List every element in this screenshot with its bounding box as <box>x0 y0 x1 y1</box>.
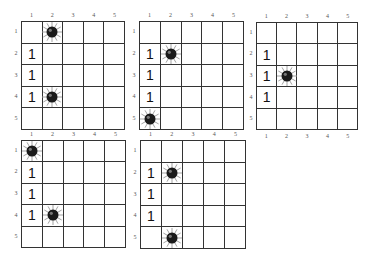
cell-r4-c3[interactable] <box>64 205 85 226</box>
cell-r2-c2[interactable] <box>162 163 183 185</box>
cell-r3-c3[interactable] <box>64 184 85 205</box>
cell-r5-c5[interactable] <box>104 108 125 130</box>
cell-r1-c3[interactable] <box>64 141 85 162</box>
cell-r2-c2[interactable] <box>277 44 297 65</box>
cell-r1-c1[interactable] <box>140 22 161 44</box>
cell-r2-c3[interactable] <box>182 44 203 66</box>
cell-r3-c3[interactable] <box>63 65 84 87</box>
cell-r1-c3[interactable] <box>63 22 84 44</box>
cell-r4-c4[interactable] <box>318 87 338 108</box>
cell-r3-c3[interactable] <box>183 184 204 206</box>
cell-r3-c4[interactable] <box>84 65 105 87</box>
cell-r1-c1[interactable] <box>257 23 277 44</box>
cell-r5-c3[interactable] <box>63 108 84 130</box>
cell-r5-c1[interactable] <box>22 227 43 248</box>
cell-r3-c2[interactable] <box>162 184 183 206</box>
cell-r4-c3[interactable] <box>297 87 317 108</box>
cell-r4-c1[interactable]: 1 <box>140 87 161 109</box>
cell-r2-c5[interactable] <box>223 44 244 66</box>
cell-r2-c4[interactable] <box>84 44 105 66</box>
cell-r2-c1[interactable]: 1 <box>22 44 43 66</box>
cell-r1-c5[interactable] <box>104 22 125 44</box>
cell-r4-c2[interactable] <box>43 87 64 109</box>
cell-r3-c5[interactable] <box>225 184 246 206</box>
cell-r4-c1[interactable]: 1 <box>141 206 162 228</box>
cell-r5-c2[interactable] <box>162 227 183 249</box>
cell-r1-c3[interactable] <box>297 23 317 44</box>
cell-r5-c3[interactable] <box>64 227 85 248</box>
cell-r1-c2[interactable] <box>277 23 297 44</box>
cell-r1-c5[interactable] <box>105 141 126 162</box>
cell-r1-c5[interactable] <box>338 23 358 44</box>
cell-r4-c3[interactable] <box>183 206 204 228</box>
cell-r5-c1[interactable] <box>140 108 161 130</box>
cell-r3-c5[interactable] <box>105 184 126 205</box>
cell-r3-c2[interactable] <box>277 66 297 87</box>
cell-r1-c2[interactable] <box>43 22 64 44</box>
cell-r5-c4[interactable] <box>84 227 105 248</box>
cell-r1-c4[interactable] <box>84 22 105 44</box>
cell-r5-c5[interactable] <box>338 109 358 130</box>
cell-r2-c1[interactable]: 1 <box>140 44 161 66</box>
cell-r1-c3[interactable] <box>182 22 203 44</box>
cell-r4-c1[interactable]: 1 <box>22 205 43 226</box>
cell-r2-c5[interactable] <box>225 163 246 185</box>
cell-r3-c1[interactable]: 1 <box>22 65 43 87</box>
cell-r3-c4[interactable] <box>204 184 225 206</box>
cell-r1-c4[interactable] <box>202 22 223 44</box>
cell-r1-c2[interactable] <box>161 22 182 44</box>
cell-r1-c1[interactable] <box>22 22 43 44</box>
cell-r4-c3[interactable] <box>63 87 84 109</box>
cell-r3-c1[interactable]: 1 <box>257 66 277 87</box>
cell-r5-c4[interactable] <box>84 108 105 130</box>
cell-r2-c3[interactable] <box>183 163 204 185</box>
cell-r3-c1[interactable]: 1 <box>140 65 161 87</box>
cell-r2-c5[interactable] <box>104 44 125 66</box>
cell-r3-c1[interactable]: 1 <box>22 184 43 205</box>
cell-r5-c4[interactable] <box>202 108 223 130</box>
cell-r5-c1[interactable] <box>257 109 277 130</box>
cell-r4-c5[interactable] <box>225 206 246 228</box>
cell-r2-c3[interactable] <box>297 44 317 65</box>
cell-r2-c5[interactable] <box>105 162 126 183</box>
cell-r3-c2[interactable] <box>43 184 64 205</box>
cell-r3-c3[interactable] <box>182 65 203 87</box>
cell-r2-c4[interactable] <box>84 162 105 183</box>
cell-r4-c5[interactable] <box>338 87 358 108</box>
cell-r3-c5[interactable] <box>104 65 125 87</box>
cell-r2-c2[interactable] <box>43 44 64 66</box>
cell-r3-c2[interactable] <box>161 65 182 87</box>
cell-r2-c3[interactable] <box>64 162 85 183</box>
cell-r5-c4[interactable] <box>204 227 225 249</box>
cell-r4-c5[interactable] <box>223 87 244 109</box>
cell-r2-c1[interactable]: 1 <box>257 44 277 65</box>
cell-r4-c4[interactable] <box>84 205 105 226</box>
cell-r3-c4[interactable] <box>318 66 338 87</box>
cell-r2-c4[interactable] <box>318 44 338 65</box>
cell-r2-c1[interactable]: 1 <box>22 162 43 183</box>
cell-r1-c3[interactable] <box>183 141 204 163</box>
cell-r4-c4[interactable] <box>202 87 223 109</box>
cell-r1-c4[interactable] <box>204 141 225 163</box>
cell-r3-c2[interactable] <box>43 65 64 87</box>
cell-r1-c5[interactable] <box>223 22 244 44</box>
cell-r4-c5[interactable] <box>104 87 125 109</box>
cell-r3-c4[interactable] <box>202 65 223 87</box>
cell-r5-c2[interactable] <box>43 108 64 130</box>
cell-r5-c5[interactable] <box>105 227 126 248</box>
cell-r2-c2[interactable] <box>161 44 182 66</box>
cell-r2-c2[interactable] <box>43 162 64 183</box>
cell-r1-c2[interactable] <box>43 141 64 162</box>
cell-r3-c3[interactable] <box>297 66 317 87</box>
cell-r5-c1[interactable] <box>22 108 43 130</box>
cell-r2-c4[interactable] <box>204 163 225 185</box>
cell-r1-c2[interactable] <box>162 141 183 163</box>
cell-r1-c5[interactable] <box>225 141 246 163</box>
cell-r1-c1[interactable] <box>22 141 43 162</box>
cell-r5-c2[interactable] <box>277 109 297 130</box>
cell-r5-c1[interactable] <box>141 227 162 249</box>
cell-r4-c4[interactable] <box>84 87 105 109</box>
cell-r4-c2[interactable] <box>162 206 183 228</box>
cell-r4-c2[interactable] <box>161 87 182 109</box>
cell-r4-c3[interactable] <box>182 87 203 109</box>
